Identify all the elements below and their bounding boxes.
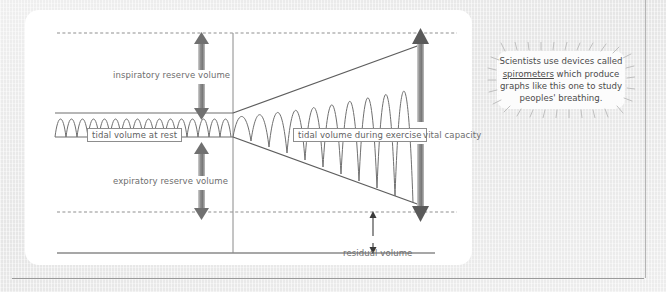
callout-line-2-rest: which produce xyxy=(554,69,619,79)
page-vertical-rule xyxy=(645,0,646,278)
page-horizontal-rule xyxy=(12,278,644,279)
page-background: inspiratory reserve volume expiratory re… xyxy=(0,0,666,292)
callout-text-block: Scientists use devices called spirometer… xyxy=(487,42,635,118)
label-tidal-volume-during-exercise: tidal volume during exercise xyxy=(293,128,427,142)
vital-capacity-arrow xyxy=(412,28,429,222)
label-residual-volume: residual volume xyxy=(343,248,412,258)
callout-line-4: peoples' breathing. xyxy=(520,92,603,104)
exercise-lower-envelope xyxy=(233,137,420,205)
diagram-card: inspiratory reserve volume expiratory re… xyxy=(25,10,472,265)
callout-line-2: spirometers which produce xyxy=(503,68,620,80)
label-expiratory-reserve-volume: expiratory reserve volume xyxy=(113,176,228,186)
label-tidal-volume-at-rest: tidal volume at rest xyxy=(87,128,182,142)
exercise-upper-envelope xyxy=(233,45,420,113)
callout-line-3: graphs like this one to study xyxy=(500,80,622,92)
label-vital-capacity: vital capacity xyxy=(423,130,481,140)
spirometer-callout: Scientists use devices called spirometer… xyxy=(487,42,635,118)
spirometers-underlined: spirometers xyxy=(503,69,554,79)
label-inspiratory-reserve-volume: inspiratory reserve volume xyxy=(113,70,230,80)
callout-line-1: Scientists use devices called xyxy=(499,55,622,67)
